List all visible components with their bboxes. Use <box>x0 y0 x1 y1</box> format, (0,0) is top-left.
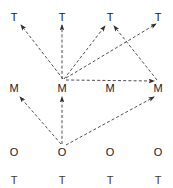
node-T5: T <box>11 175 18 186</box>
edge-M2-to-T1 <box>21 25 63 79</box>
lattice-diagram: TTTTMMMMOOOOTTTT <box>0 0 173 188</box>
node-O2: O <box>58 147 67 158</box>
node-T3: T <box>107 12 114 23</box>
node-O3: O <box>106 147 115 158</box>
edge-O2-to-M1 <box>20 97 61 144</box>
node-T8: T <box>155 175 162 186</box>
edge-M2-to-T4 <box>66 24 156 78</box>
node-T1: T <box>11 12 18 23</box>
node-M4: M <box>153 83 162 94</box>
edge-M4-to-T3 <box>114 26 157 80</box>
edge-group <box>20 24 157 145</box>
node-T7: T <box>107 175 114 186</box>
node-T6: T <box>59 175 66 186</box>
node-M3: M <box>105 83 114 94</box>
edges-layer <box>0 0 173 188</box>
node-O4: O <box>154 147 163 158</box>
node-T2: T <box>59 12 66 23</box>
edge-O2-to-M4 <box>66 97 154 145</box>
node-O1: O <box>10 147 19 158</box>
edge-M2-to-T3 <box>64 26 105 79</box>
node-M2: M <box>57 83 66 94</box>
node-M1: M <box>9 83 18 94</box>
node-T4: T <box>155 12 162 23</box>
